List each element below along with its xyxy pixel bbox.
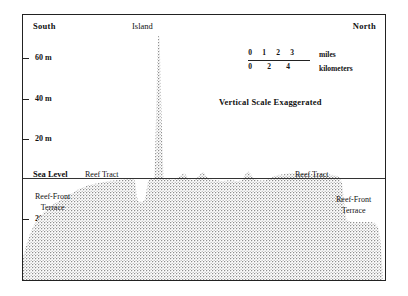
reef-front-terrace-right-line1: Reef-Front [336,195,371,204]
figure-canvas: South Island North 60 m 40 m 20 m 20 m 0… [0,0,408,296]
reef-tract-label-right: Reef Tract [295,170,329,181]
island-peak-shape [155,35,164,178]
reef-tract-label-left: Reef Tract [85,170,119,181]
sea-level-label: Sea Level [33,170,68,179]
reef-front-terrace-label-left: Reef-Front Terrace [35,192,70,214]
sea-level-line [23,178,385,179]
cross-section-frame: South Island North 60 m 40 m 20 m 20 m 0… [22,14,386,281]
reef-front-terrace-left-line1: Reef-Front [35,192,70,201]
reef-front-terrace-left-line2: Terrace [41,203,65,212]
reef-front-terrace-label-right: Reef-Front Terrace [336,195,371,217]
terrain-profile [23,15,386,281]
seafloor-profile-shape [23,172,383,282]
reef-front-terrace-right-line2: Terrace [342,206,366,215]
